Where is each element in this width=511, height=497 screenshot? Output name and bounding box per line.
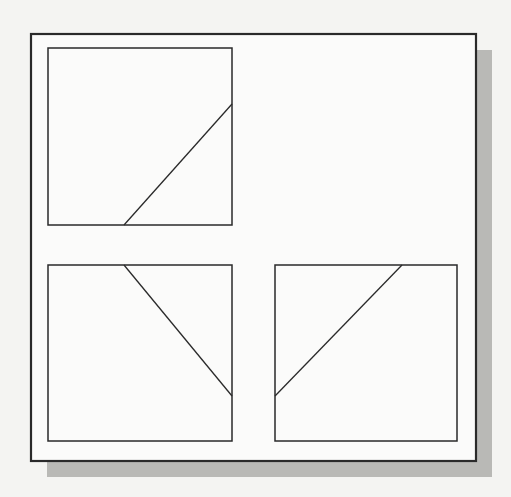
outer-frame <box>31 34 476 461</box>
diagram-stage <box>0 0 511 497</box>
window-layout-diagram <box>0 0 511 497</box>
outer-frame-rect <box>31 34 476 461</box>
